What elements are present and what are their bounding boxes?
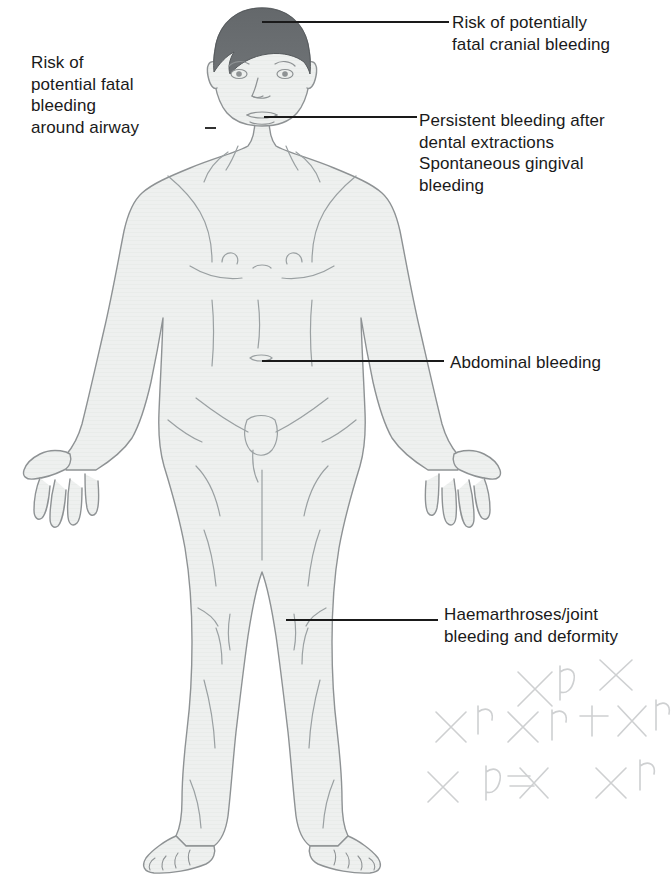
callout-dental-gingival-bleeding: Persistent bleeding after dental extract…: [419, 110, 669, 196]
callout-airway-bleeding: Risk of potential fatal bleeding around …: [31, 52, 221, 138]
callout-cranial-bleeding: Risk of potentially fatal cranial bleedi…: [452, 12, 667, 55]
callout-haemarthroses-joint-bleeding: Haemarthroses/joint bleeding and deformi…: [444, 604, 669, 647]
callout-abdominal-bleeding: Abdominal bleeding: [450, 352, 665, 374]
bleeding-sites-figure: Risk of potential fatal bleeding around …: [0, 0, 672, 883]
pencil-scribble-marks: [428, 660, 669, 802]
